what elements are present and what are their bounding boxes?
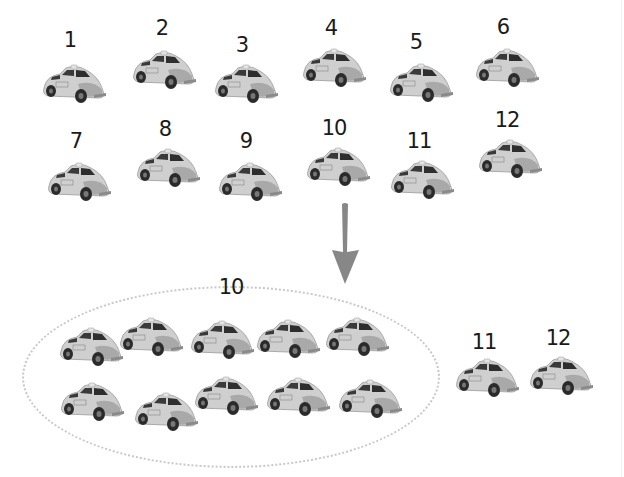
taxi-car-icon — [38, 62, 108, 106]
count-label: 1 — [64, 30, 76, 51]
taxi-car-icon — [302, 145, 372, 189]
taxi-car-icon — [115, 315, 185, 359]
count-label: 9 — [240, 131, 252, 152]
count-label: 12 — [495, 110, 520, 131]
count-label: 2 — [156, 18, 168, 39]
taxi-car-icon — [471, 46, 541, 90]
taxi-car-icon — [474, 137, 544, 181]
count-label: 4 — [325, 18, 337, 39]
taxi-car-icon — [43, 160, 113, 204]
taxi-car-icon — [386, 158, 456, 202]
count-label: 10 — [322, 118, 347, 139]
taxi-car-icon — [451, 356, 521, 400]
taxi-car-icon — [298, 46, 368, 90]
taxi-car-icon — [525, 354, 595, 398]
taxi-car-icon — [132, 146, 202, 190]
group-count-label: 10 — [219, 277, 244, 298]
edge-divider — [621, 0, 622, 477]
taxi-car-icon — [321, 315, 391, 359]
count-label: 12 — [546, 328, 571, 349]
taxi-car-icon — [190, 374, 260, 418]
count-label: 3 — [236, 35, 248, 56]
count-label: 6 — [497, 17, 509, 38]
taxi-car-icon — [186, 318, 256, 362]
taxi-car-icon — [262, 375, 332, 419]
count-label: 8 — [159, 119, 171, 140]
taxi-counting-diagram: 1 2 3 — [0, 0, 624, 477]
taxi-car-icon — [252, 317, 322, 361]
count-label: 11 — [472, 332, 497, 353]
taxi-car-icon — [210, 62, 280, 106]
taxi-car-icon — [214, 160, 284, 204]
down-arrow-icon — [328, 200, 362, 286]
count-label: 5 — [410, 32, 422, 53]
taxi-car-icon — [56, 380, 126, 424]
count-label: 11 — [407, 131, 432, 152]
taxi-car-icon — [334, 377, 404, 421]
count-label: 7 — [70, 131, 82, 152]
taxi-car-icon — [128, 48, 198, 92]
taxi-car-icon — [385, 61, 455, 105]
